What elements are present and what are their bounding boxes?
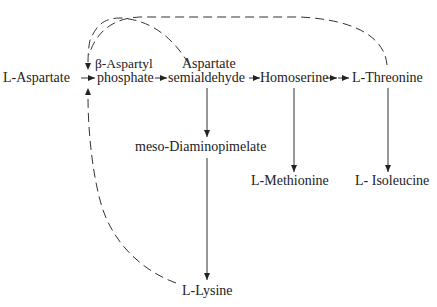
node-l-isoleucine: L- Isoleucine [355,173,429,189]
node-homoserine: Homoserine [260,70,328,86]
feedback-arrowhead-top [85,63,91,70]
feedback-arc-lysine [88,96,176,283]
node-l-lysine: L-Lysine [182,283,233,299]
node-l-aspartate: L-Aspartate [3,70,70,86]
feedback-arrowhead-bottom [85,88,91,95]
node-l-methionine: L-Methionine [251,173,329,189]
node-l-threonine: L-Threonine [352,70,423,86]
node-semialdehyde-line2: semialdehyde [168,70,245,86]
node-meso-diaminopimelate: meso-Diaminopimelate [135,139,266,155]
node-aspartyl-phosphate-line2: phosphate [97,70,154,86]
pathway-diagram: L-Aspartate β-Aspartyl phosphate Asparta… [0,0,437,307]
